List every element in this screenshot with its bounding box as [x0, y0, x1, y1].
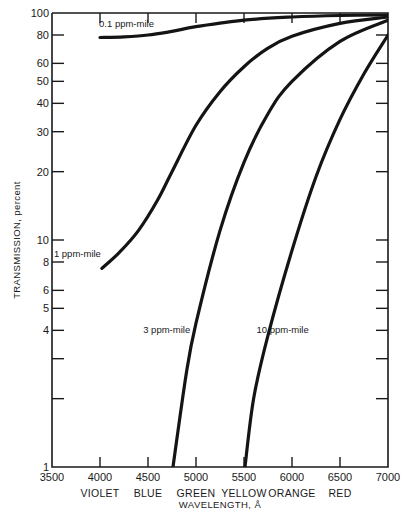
- curve-label: 3 ppm-mile: [143, 324, 190, 335]
- y-axis-ticks: 1456810203040506080100: [31, 7, 388, 473]
- x-tick-label: 6000: [280, 471, 304, 483]
- y-tick-label: 60: [37, 57, 49, 69]
- y-tick-label: 20: [37, 166, 49, 178]
- y-tick-label: 4: [43, 324, 49, 336]
- color-band-label: RED: [328, 487, 351, 499]
- x-tick-label: 4500: [136, 471, 160, 483]
- y-tick-label: 5: [43, 302, 49, 314]
- curve-label: 0.1 ppm-mile: [99, 18, 154, 29]
- plot-frame: [52, 13, 388, 467]
- curve-10-ppm-mile: [245, 35, 388, 467]
- y-axis-title: TRANSMISSION, percent: [11, 181, 22, 299]
- curve-1-ppm-mile: [102, 17, 388, 268]
- y-tick-label: 50: [37, 75, 49, 87]
- y-tick-label: 6: [43, 284, 49, 296]
- x-tick-label: 7000: [376, 471, 400, 483]
- curve-labels: 0.1 ppm-mile1 ppm-mile3 ppm-mile10 ppm-m…: [54, 18, 309, 335]
- y-tick-label: 40: [37, 97, 49, 109]
- x-axis-title: WAVELENGTH, Å: [179, 499, 262, 510]
- x-tick-label: 5500: [232, 471, 256, 483]
- y-tick-label: 80: [37, 29, 49, 41]
- axis-lines: [52, 13, 388, 467]
- y-tick-label: 30: [37, 126, 49, 138]
- x-tick-label: 4000: [88, 471, 112, 483]
- color-band-label: ORANGE: [268, 487, 315, 499]
- curve-label: 10 ppm-mile: [256, 324, 308, 335]
- x-tick-label: 5000: [184, 471, 208, 483]
- color-band-label: YELLOW: [221, 487, 267, 499]
- x-tick-label: 6500: [328, 471, 352, 483]
- transmission-chart: 1456810203040506080100 35004000450050005…: [0, 0, 410, 516]
- color-band-label: BLUE: [134, 487, 163, 499]
- color-band-label: VIOLET: [80, 487, 119, 499]
- curve-label: 1 ppm-mile: [54, 248, 101, 259]
- y-tick-label: 100: [31, 7, 49, 19]
- color-band-label: GREEN: [177, 487, 216, 499]
- y-tick-label: 10: [37, 234, 49, 246]
- x-tick-label: 3500: [40, 471, 64, 483]
- y-tick-label: 8: [43, 256, 49, 268]
- curves: [100, 15, 388, 467]
